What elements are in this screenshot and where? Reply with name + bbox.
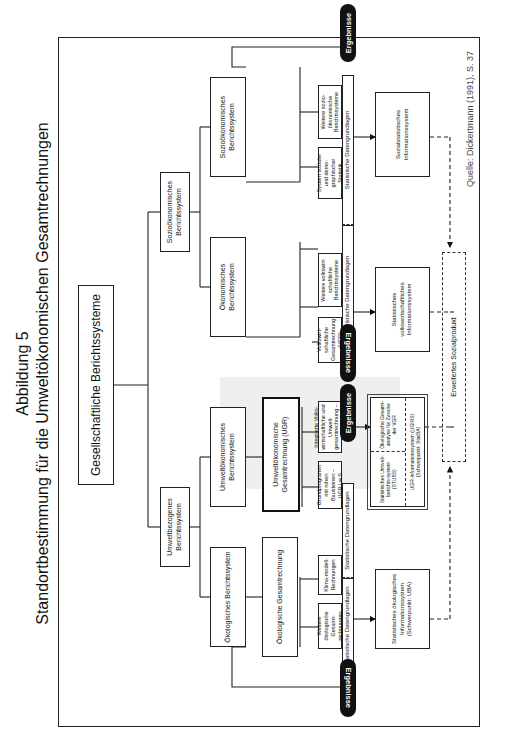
data-basis-4: Statistische Datengrundlagen — [342, 75, 354, 225]
further-economic-systems-box: Weitere volkswirt-schaftliche Berichtssy… — [318, 253, 342, 307]
ecological-accounting-box: Ökologische Gesamtrechnung — [262, 537, 298, 657]
socioeconomic-reporting-system-box-l3: Sozioökonomisches Berichtssystem — [210, 77, 246, 177]
environmental-reporting-system-box: Umweltbezogenes Berichtssystem — [160, 487, 190, 567]
societal-reporting-systems-box: Gesellschaftliche Berichtssysteme — [78, 285, 114, 485]
national-accounts-vgr-box: Volkswirt-schaftliche Gesamtrechnung (VG… — [318, 317, 342, 363]
ugris-cell: UGR-Informationssystem (UGRIS) (Schwerpu… — [406, 398, 424, 506]
social-info-system-box: Sozialstatistisches Informationssystem — [375, 92, 430, 177]
economic-info-system-box: Statistisches volkswirtschaftliches Info… — [375, 267, 430, 352]
economic-reporting-system-box: Ökonomisches Berichtssystem — [210, 237, 246, 337]
basic-program-box: Grundprogramm mit rohen Bausteinen – UGR… — [318, 461, 342, 509]
social-demographic-statistics-box: System sozialer und demo-graphischer Sta… — [318, 147, 342, 199]
results-oval-1: Ergebnisse — [340, 659, 356, 717]
ecological-reporting-system-box: Ökologisches Berichtssystem — [210, 547, 246, 647]
ugr-info-system-box: Statistisches Umwelt-berichts-system (ST… — [370, 397, 425, 507]
further-socioeconomic-systems-box: Weitere sozio-ökonomische Berichtssystem… — [318, 85, 342, 139]
socioeconomic-reporting-system-box: Sozioökonomisches Berichtssystem — [160, 172, 190, 252]
diagram-page: Abbildung 5 Standortbestimmung für die U… — [0, 0, 523, 747]
extended-social-product-box: Erweitertes Sozialprodukt — [442, 252, 466, 462]
integrated-accounts-box: Integrierte Volks-wirtschaftliche und Um… — [318, 401, 342, 453]
results-oval-2: Ergebnisse — [340, 384, 356, 442]
results-oval-3: Ergebnisse — [340, 324, 356, 382]
climate-model-box: Klima-modell-Rechnungen — [318, 555, 342, 595]
data-basis-2: Statistische Datengrundlagen — [342, 483, 354, 578]
results-oval-4: Ergebnisse — [340, 4, 356, 62]
ecological-analysis-cell: Ökologische Gesamt-analyse für Zwecke de… — [371, 398, 405, 452]
ecological-info-system-box: Statistisches ökologisches Informationss… — [375, 569, 430, 649]
stubs-cell: Statistisches Umwelt-berichts-system (ST… — [371, 452, 405, 507]
environmental-economic-reporting-system-box: Umweltökonomisches Berichtssystem — [210, 407, 246, 507]
source-citation: Quelle: Dickertmann (1991), S. 37 — [465, 51, 475, 187]
further-ecological-accounts-box: Weitere ökologische Gesamt-rechnungen — [318, 603, 342, 649]
ugr-accounting-box: Umweltökonomische Gesamtrechnung (UGR) — [262, 397, 300, 512]
